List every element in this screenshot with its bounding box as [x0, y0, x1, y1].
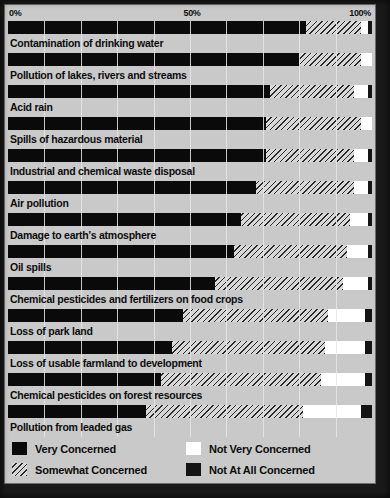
bar-segment-somewhat-concerned	[234, 245, 347, 258]
stacked-bar	[8, 245, 372, 258]
bar-segment-very-concerned	[8, 117, 266, 130]
swatch-very-concerned	[12, 442, 27, 455]
bar-segment-very-concerned	[8, 341, 172, 354]
legend-item-label: Very Concerned	[35, 443, 116, 455]
bar-segment-very-concerned	[8, 53, 299, 66]
x-axis-tick-50: 50%	[183, 7, 200, 19]
bar-segment-not-very-concerned	[354, 181, 369, 194]
stacked-bar	[8, 85, 372, 98]
bar-row-label: Spills of hazardous material	[8, 130, 372, 149]
stacked-bar	[8, 117, 372, 130]
chart-row: Pollution from leaded gas	[8, 405, 372, 437]
bar-segment-not-at-all-concerned	[361, 405, 372, 418]
chart-row: Damage to earth's atmosphere	[8, 213, 372, 245]
chart-row: Chemical pesticides and fertilizers on f…	[8, 277, 372, 309]
bar-segment-not-very-concerned	[328, 309, 364, 322]
chart-row: Loss of park land	[8, 309, 372, 341]
bar-segment-very-concerned	[8, 373, 161, 386]
bar-row-label: Damage to earth's atmosphere	[8, 226, 372, 245]
bar-segment-not-at-all-concerned	[368, 181, 372, 194]
bar-segment-somewhat-concerned	[256, 181, 354, 194]
bar-segment-not-very-concerned	[354, 85, 369, 98]
swatch-somewhat-concerned	[12, 463, 27, 476]
bar-segment-not-at-all-concerned	[365, 309, 372, 322]
x-axis-tick-strip: 0% 50% 100%	[8, 7, 372, 21]
chart-row: Chemical pesticides on forest resources	[8, 373, 372, 405]
bar-segment-not-at-all-concerned	[365, 341, 372, 354]
stacked-bar	[8, 21, 372, 34]
bar-row-label: Oil spills	[8, 258, 372, 277]
legend-item: Very Concerned	[12, 439, 116, 458]
bar-segment-not-very-concerned	[350, 213, 368, 226]
bar-row-label: Chemical pesticides and fertilizers on f…	[8, 290, 372, 309]
chart-row: Contamination of drinking water	[8, 21, 372, 53]
bar-segment-not-very-concerned	[361, 53, 372, 66]
bar-segment-somewhat-concerned	[299, 53, 361, 66]
bar-row-label: Pollution of lakes, rivers and streams	[8, 66, 372, 85]
bar-segment-very-concerned	[8, 245, 234, 258]
chart-row: Air pollution	[8, 181, 372, 213]
bar-segment-very-concerned	[8, 277, 215, 290]
bar-segment-not-very-concerned	[343, 277, 368, 290]
bar-row-label: Air pollution	[8, 194, 372, 213]
x-axis-tick-0: 0%	[9, 7, 21, 19]
bar-segment-somewhat-concerned	[266, 117, 361, 130]
bar-segment-somewhat-concerned	[241, 213, 350, 226]
bar-segment-somewhat-concerned	[161, 373, 321, 386]
bar-segment-not-very-concerned	[347, 245, 369, 258]
chart-panel: 0% 50% 100% Contamination of drinking wa…	[4, 4, 376, 484]
bar-row-label: Industrial and chemical waste disposal	[8, 162, 372, 181]
bar-segment-somewhat-concerned	[270, 85, 354, 98]
chart-row: Industrial and chemical waste disposal	[8, 149, 372, 181]
bar-segment-somewhat-concerned	[172, 341, 325, 354]
bar-row-label: Chemical pesticides on forest resources	[8, 386, 372, 405]
bar-segment-not-at-all-concerned	[368, 277, 372, 290]
bar-segment-not-very-concerned	[325, 341, 365, 354]
legend-item: Somewhat Concerned	[12, 460, 147, 479]
chart-row: Acid rain	[8, 85, 372, 117]
bar-row-label: Loss of park land	[8, 322, 372, 341]
bar-row-label: Loss of usable farmland to development	[8, 354, 372, 373]
stacked-bar	[8, 213, 372, 226]
chart-legend: Very ConcernedNot Very ConcernedSomewhat…	[8, 438, 372, 482]
stacked-bar	[8, 181, 372, 194]
bar-segment-very-concerned	[8, 405, 146, 418]
bar-row-label: Pollution from leaded gas	[8, 418, 372, 437]
bar-segment-not-at-all-concerned	[368, 245, 372, 258]
bar-row-label: Acid rain	[8, 98, 372, 117]
bar-segment-very-concerned	[8, 309, 183, 322]
bar-segment-not-very-concerned	[303, 405, 361, 418]
stacked-bar	[8, 405, 372, 418]
bar-segment-not-very-concerned	[321, 373, 365, 386]
legend-item-label: Not At All Concerned	[209, 464, 315, 476]
legend-item-label: Somewhat Concerned	[35, 464, 147, 476]
bar-segment-not-very-concerned	[354, 149, 369, 162]
bar-rows-container: Contamination of drinking waterPollution…	[8, 21, 372, 437]
legend-item: Not At All Concerned	[186, 460, 315, 479]
stacked-bar	[8, 149, 372, 162]
bar-segment-not-at-all-concerned	[368, 149, 372, 162]
bar-segment-somewhat-concerned	[306, 21, 361, 34]
swatch-not-at-all-concerned	[186, 463, 201, 476]
scanned-page-frame: 0% 50% 100% Contamination of drinking wa…	[0, 0, 390, 498]
bar-segment-not-very-concerned	[361, 117, 372, 130]
bar-segment-very-concerned	[8, 181, 256, 194]
bar-segment-somewhat-concerned	[183, 309, 329, 322]
chart-row: Pollution of lakes, rivers and streams	[8, 53, 372, 85]
bar-segment-somewhat-concerned	[266, 149, 353, 162]
stacked-bar	[8, 277, 372, 290]
chart-row: Oil spills	[8, 245, 372, 277]
bar-segment-somewhat-concerned	[215, 277, 342, 290]
stacked-bar	[8, 341, 372, 354]
chart-row: Loss of usable farmland to development	[8, 341, 372, 373]
bar-segment-not-at-all-concerned	[368, 21, 372, 34]
chart-row: Spills of hazardous material	[8, 117, 372, 149]
bar-segment-very-concerned	[8, 149, 266, 162]
legend-item-label: Not Very Concerned	[209, 443, 311, 455]
stacked-bar	[8, 309, 372, 322]
legend-item: Not Very Concerned	[186, 439, 311, 458]
bar-segment-not-at-all-concerned	[368, 85, 372, 98]
bar-segment-very-concerned	[8, 85, 270, 98]
plot-area: Contamination of drinking waterPollution…	[8, 21, 372, 437]
swatch-not-very-concerned	[186, 442, 201, 455]
